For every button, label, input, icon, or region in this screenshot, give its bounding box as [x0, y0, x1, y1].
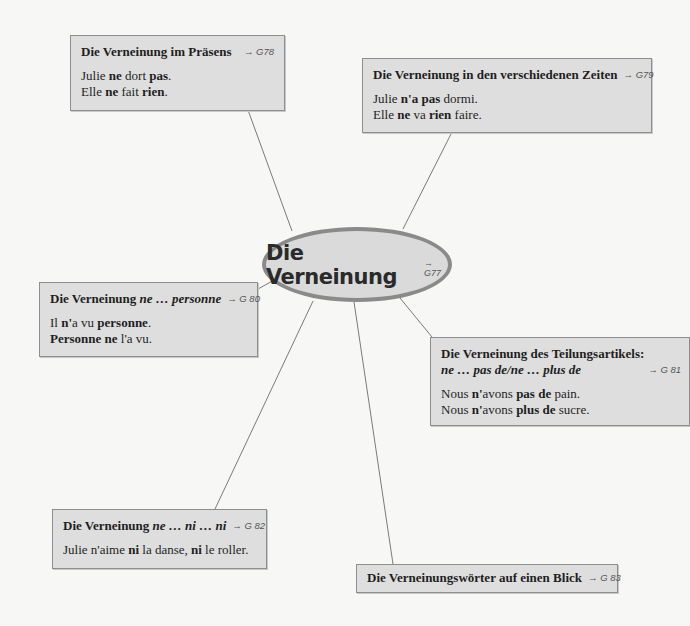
- examples: Julie ne dort pas.Elle ne fait rien.: [81, 68, 274, 100]
- box-teilungsartikel: Die Verneinung des Teilungsartikels: ne …: [430, 337, 690, 426]
- examples: Il n'a vu personne.Personne ne l'a vu.: [50, 315, 247, 347]
- example-sentence: Julie n'a pas dormi.: [373, 91, 641, 107]
- box-title: Die Verneinung im Präsens: [81, 44, 232, 60]
- grammar-ref: → G79: [624, 67, 654, 83]
- box-blick: Die Verneinungswörter auf einen Blick→ G…: [356, 564, 618, 593]
- example-sentence: Nous n'avons plus de sucre.: [441, 402, 679, 418]
- examples: Julie n'a pas dormi.Elle ne va rien fair…: [373, 91, 641, 123]
- grammar-ref: → G 81: [648, 362, 681, 378]
- example-sentence: Elle ne fait rien.: [81, 84, 274, 100]
- box-zeiten: Die Verneinung in den verschiedenen Zeit…: [362, 58, 652, 133]
- box-personne: Die Verneinung ne … personne→ G 80 Il n'…: [39, 282, 258, 357]
- grammar-ref: → G78: [244, 44, 274, 60]
- box-title: Die Verneinung: [63, 518, 153, 533]
- box-title: Die Verneinung in den verschiedenen Zeit…: [373, 67, 618, 83]
- example-sentence: Elle ne va rien faire.: [373, 107, 641, 123]
- examples: Nous n'avons pas de pain.Nous n'avons pl…: [441, 386, 679, 418]
- box-ni: Die Verneinung ne … ni … ni→ G 82 Julie …: [52, 509, 267, 569]
- box-title-italic: ne … ni … ni: [153, 518, 227, 533]
- example-sentence: Julie n'aime ni la danse, ni le roller.: [63, 542, 256, 558]
- examples: Julie n'aime ni la danse, ni le roller.: [63, 542, 256, 558]
- grammar-ref: → G 83: [588, 570, 621, 586]
- connector-teilungsartikel: [400, 298, 432, 337]
- box-title-italic: ne … pas de/ne … plus de: [441, 362, 581, 378]
- example-sentence: Personne ne l'a vu.: [50, 331, 247, 347]
- box-title-italic: ne … personne: [140, 291, 222, 306]
- connector-blick: [354, 302, 393, 564]
- central-topic-ellipse: Die Verneinung → G77: [262, 227, 452, 302]
- example-sentence: Il n'a vu personne.: [50, 315, 247, 331]
- central-topic-title: Die Verneinung: [266, 241, 414, 289]
- grammar-ref: → G 80: [227, 291, 260, 307]
- example-sentence: Nous n'avons pas de pain.: [441, 386, 679, 402]
- box-title: Die Verneinung: [50, 291, 140, 306]
- connector-praesens: [248, 110, 292, 231]
- box-title: Die Verneinung des Teilungsartikels:: [441, 346, 644, 361]
- box-praesens: Die Verneinung im Präsens→ G78 Julie ne …: [70, 35, 285, 111]
- connector-zeiten: [403, 132, 452, 229]
- central-topic-ref: → G77: [424, 258, 448, 278]
- grammar-ref: → G 82: [232, 518, 265, 534]
- box-title: Die Verneinungswörter auf einen Blick: [367, 570, 582, 586]
- example-sentence: Julie ne dort pas.: [81, 68, 274, 84]
